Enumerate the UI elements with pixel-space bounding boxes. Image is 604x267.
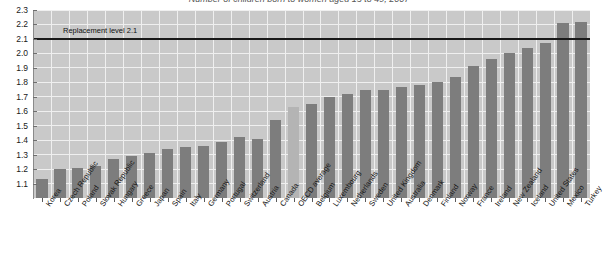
x-tick-mark [276, 198, 277, 202]
x-tick-mark [114, 198, 115, 202]
y-tick-label: 2.0 [16, 48, 28, 58]
y-tick-label: 1.8 [16, 77, 28, 87]
y-tick-label: 1.4 [16, 135, 28, 145]
x-tick-mark [491, 198, 492, 202]
plot-area: Replacement level 2.1 [33, 10, 590, 198]
x-tick-mark [347, 198, 348, 202]
x-tick-mark [294, 198, 295, 202]
y-tick-label: 1.1 [16, 179, 28, 189]
y-tick-label: 2.3 [16, 5, 28, 15]
x-tick-mark [365, 198, 366, 202]
chart-title: Number of children born to women aged 15… [0, 0, 598, 4]
y-tick-mark [33, 82, 37, 83]
bar [450, 77, 461, 198]
y-tick-label: 1.5 [16, 121, 28, 131]
x-tick-mark [258, 198, 259, 202]
x-tick-mark [312, 198, 313, 202]
x-tick-mark [186, 198, 187, 202]
y-tick-mark [33, 126, 37, 127]
x-tick-mark [509, 198, 510, 202]
y-tick-mark [33, 184, 37, 185]
bar [468, 66, 479, 198]
x-tick-mark [545, 198, 546, 202]
bar [486, 59, 497, 198]
x-tick-mark [437, 198, 438, 202]
y-tick-mark [33, 39, 37, 40]
y-tick-label: 1.3 [16, 150, 28, 160]
x-tick-mark [222, 198, 223, 202]
bar [198, 146, 209, 198]
x-tick-mark [42, 198, 43, 202]
y-tick-label: 2.2 [16, 19, 28, 29]
y-tick-label: 1.6 [16, 106, 28, 116]
y-tick-mark [33, 53, 37, 54]
x-tick-mark [150, 198, 151, 202]
y-tick-label: 2.1 [16, 34, 28, 44]
y-tick-mark [33, 68, 37, 69]
replacement-level-line [33, 38, 590, 40]
x-tick-mark [419, 198, 420, 202]
replacement-level-label: Replacement level 2.1 [63, 26, 137, 35]
y-tick-mark [33, 97, 37, 98]
y-tick-mark [33, 111, 37, 112]
y-tick-mark [33, 140, 37, 141]
x-tick-mark [60, 198, 61, 202]
x-tick-mark [401, 198, 402, 202]
x-tick-mark [563, 198, 564, 202]
bar [36, 179, 47, 198]
bar [504, 53, 515, 198]
x-tick-mark [383, 198, 384, 202]
y-tick-mark [33, 24, 37, 25]
y-tick-mark [33, 10, 37, 11]
x-tick-mark [329, 198, 330, 202]
x-tick-mark [527, 198, 528, 202]
x-tick-mark [455, 198, 456, 202]
y-tick-label: 1.7 [16, 92, 28, 102]
x-tick-mark [204, 198, 205, 202]
x-axis-labels: KoreaCzech RepublicPolandSlovak Republic… [33, 203, 598, 267]
x-tick-mark [96, 198, 97, 202]
x-tick-mark [168, 198, 169, 202]
x-tick-mark [473, 198, 474, 202]
y-tick-label: 1.9 [16, 63, 28, 73]
y-tick-mark [33, 169, 37, 170]
bar-series: Replacement level 2.1 [33, 10, 590, 198]
bar [557, 23, 568, 198]
x-tick-mark [132, 198, 133, 202]
x-tick-mark [240, 198, 241, 202]
y-tick-label: 1.2 [16, 164, 28, 174]
x-tick-mark [78, 198, 79, 202]
x-tick-mark [581, 198, 582, 202]
y-tick-mark [33, 155, 37, 156]
y-axis-labels: 2.32.22.12.01.91.81.71.61.51.41.31.21.1 [0, 10, 30, 199]
